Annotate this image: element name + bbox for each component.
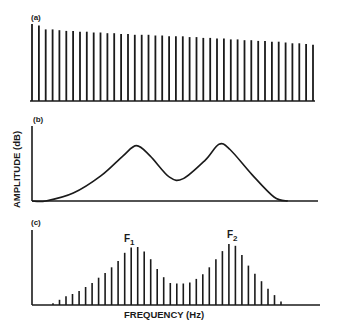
formant-f2-label: F2	[227, 229, 238, 243]
x-axis-label: FREQUENCY (Hz)	[124, 309, 204, 320]
panel-b: (b)	[32, 115, 318, 202]
transfer-function-curve	[32, 144, 288, 202]
panel-b-label: (b)	[33, 115, 44, 124]
source-filter-figure: (a) (b) AMPLITUDE (dB) (c) F1 F2 FREQUEN…	[0, 0, 338, 334]
panel-c: (c) F1 F2	[31, 218, 320, 305]
panel-c-label: (c)	[31, 218, 41, 227]
formant-f1-label: F1	[124, 233, 135, 247]
panel-c-output-bars	[53, 244, 281, 305]
panel-a: (a)	[30, 13, 315, 101]
panel-a-harmonic-bars	[32, 24, 313, 101]
y-axis-label: AMPLITUDE (dB)	[11, 131, 22, 208]
panel-a-label: (a)	[31, 13, 41, 22]
